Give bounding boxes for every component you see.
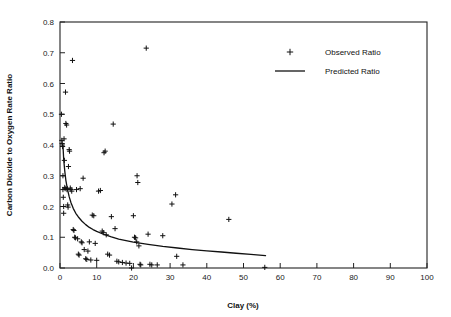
chart-figure: 0102030405060708090100 0.00.10.20.30.40.…: [0, 0, 451, 317]
y-tick-label: 0.7: [43, 49, 55, 58]
y-axis-tick-labels: 0.00.10.20.30.40.50.60.70.8: [43, 18, 55, 273]
y-tick-label: 0.8: [43, 18, 55, 27]
x-tick-label: 30: [166, 273, 175, 282]
y-tick-label: 0.3: [43, 172, 55, 181]
y-axis-title: Carbon Dioxide to Oxygen Rate Ratio: [5, 74, 14, 216]
x-tick-label: 100: [420, 273, 434, 282]
x-tick-label: 70: [312, 273, 321, 282]
y-tick-label: 0.4: [43, 141, 55, 150]
figure-background: [0, 0, 451, 317]
y-tick-label: 0.6: [43, 80, 55, 89]
y-tick-label: 0.2: [43, 203, 55, 212]
x-tick-label: 20: [129, 273, 138, 282]
x-tick-label: 90: [386, 273, 395, 282]
x-tick-label: 0: [58, 273, 63, 282]
y-tick-label: 0.1: [43, 233, 55, 242]
scatter-plot: 0102030405060708090100 0.00.10.20.30.40.…: [0, 0, 451, 317]
y-tick-label: 0.5: [43, 110, 55, 119]
x-tick-label: 10: [92, 273, 101, 282]
x-tick-label: 80: [349, 273, 358, 282]
x-axis-title: Clay (%): [227, 301, 259, 310]
x-tick-label: 40: [202, 273, 211, 282]
legend-label: Observed Ratio: [325, 48, 381, 57]
x-tick-label: 50: [239, 273, 248, 282]
y-tick-label: 0.0: [43, 264, 55, 273]
x-tick-label: 60: [276, 273, 285, 282]
legend-label: Predicted Ratio: [325, 67, 380, 76]
